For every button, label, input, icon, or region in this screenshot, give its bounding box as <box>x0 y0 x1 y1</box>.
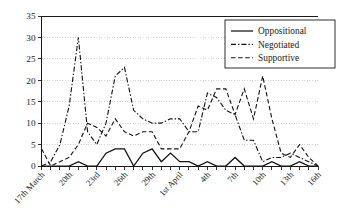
line-chart: 05101520253035 17th March20th23rd26th29t… <box>0 0 345 223</box>
y-axis-ticks-group: 05101520253035 <box>26 11 41 171</box>
y-tick-label-35: 35 <box>26 11 36 21</box>
y-tick-label-10: 10 <box>26 118 36 128</box>
y-tick-label-25: 25 <box>26 54 36 64</box>
x-tick-label-3: 26th <box>112 169 130 188</box>
x-tick-label-9: 13th <box>278 169 296 188</box>
x-tick-label-7: 7th <box>225 169 240 184</box>
legend-label-negotiated: Negotiated <box>258 40 299 50</box>
x-tick-label-2: 23rd <box>84 169 103 188</box>
chart-container: 05101520253035 17th March20th23rd26th29t… <box>0 0 345 223</box>
x-tick-label-0: 17th March <box>12 169 47 205</box>
y-tick-label-20: 20 <box>26 76 36 86</box>
x-tick-label-4: 29th <box>139 169 157 188</box>
y-tick-label-0: 0 <box>31 161 36 171</box>
x-tick-label-8: 10th <box>250 169 268 188</box>
x-tick-label-6: 4th <box>198 169 213 184</box>
legend-label-oppositional: Oppositional <box>258 26 307 36</box>
legend-label-supportive: Supportive <box>258 53 299 63</box>
y-tick-label-30: 30 <box>26 33 36 43</box>
y-tick-label-15: 15 <box>26 97 36 107</box>
x-tick-label-1: 20th <box>56 169 74 188</box>
x-tick-label-5: 1st April <box>157 169 185 198</box>
x-axis-labels-group: 17th March20th23rd26th29th1st April4th7t… <box>12 169 323 205</box>
x-tick-label-10: 16th <box>305 169 323 188</box>
y-tick-label-5: 5 <box>31 140 36 150</box>
legend: OppositionalNegotiatedSupportive <box>225 20 335 68</box>
